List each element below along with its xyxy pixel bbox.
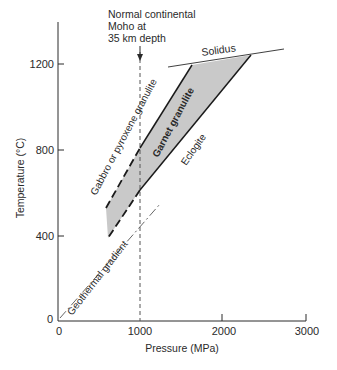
solidus-label: Solidus (201, 41, 237, 58)
y-tick-label-400: 400 (36, 230, 54, 242)
moho-annotation-line-2: Moho at (108, 20, 146, 32)
x-tick-label-0: 0 (56, 325, 62, 337)
x-tick-label-3000: 3000 (295, 325, 319, 337)
geothermal-gradient-label: Geothermal gradient (65, 238, 130, 317)
y-tick-label-800: 800 (36, 144, 54, 156)
moho-annotation-line-3: 35 km depth (108, 32, 166, 44)
moho-annotation-line-1: Normal continental (108, 8, 196, 20)
y-axis-title: Temperature (°C) (14, 138, 26, 219)
x-tick-label-2000: 2000 (212, 325, 236, 337)
y-tick-label-0: 0 (47, 313, 53, 325)
x-axis-title: Pressure (MPa) (145, 342, 219, 354)
y-tick-label-1200: 1200 (30, 58, 54, 70)
moho-arrow-icon (137, 54, 143, 61)
phase-diagram: 1200 800 400 0 0 1000 2000 3000 Pressure… (0, 0, 337, 370)
x-tick-label-1000: 1000 (128, 325, 152, 337)
